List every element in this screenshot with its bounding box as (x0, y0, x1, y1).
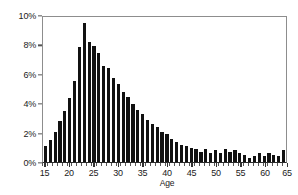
x-tick-minor (209, 163, 210, 166)
x-tick-mark (167, 163, 168, 167)
x-tick-mark (69, 163, 70, 167)
x-tick-minor (282, 163, 283, 166)
x-tick-minor (57, 163, 58, 166)
x-tick-label: 25 (89, 168, 99, 178)
x-tick-minor (76, 163, 77, 166)
x-tick-minor (243, 163, 244, 166)
x-tick-minor (62, 163, 63, 166)
bar (97, 53, 100, 162)
bar (107, 68, 110, 162)
x-tick-minor (179, 163, 180, 166)
bar (136, 110, 139, 162)
bar (122, 92, 125, 162)
y-tick-label: 4% (0, 99, 36, 109)
x-tick-label: 60 (260, 168, 270, 178)
bar (199, 152, 202, 162)
x-tick-minor (125, 163, 126, 166)
bar (83, 23, 86, 162)
x-tick-minor (111, 163, 112, 166)
x-tick-label: 65 (282, 168, 292, 178)
x-tick-minor (155, 163, 156, 166)
bar (117, 84, 120, 162)
x-tick-minor (91, 163, 92, 166)
bar (146, 120, 149, 162)
x-tick-minor (71, 163, 72, 166)
x-tick-label: 45 (187, 168, 197, 178)
age-distribution-histogram: 0%2%4%6%8%10% 1520253035404550556065 Age (0, 0, 298, 195)
bar (78, 47, 81, 162)
x-tick-minor (199, 163, 200, 166)
x-tick-minor (253, 163, 254, 166)
bar (112, 78, 115, 162)
x-tick-minor (169, 163, 170, 166)
bar (233, 150, 236, 162)
bar (282, 150, 285, 162)
x-tick-minor (160, 163, 161, 166)
y-tick-label: 2% (0, 129, 36, 139)
x-tick-minor (277, 163, 278, 166)
x-tick-minor (47, 163, 48, 166)
bar (258, 153, 261, 162)
bar (88, 42, 91, 162)
x-tick-mark (93, 163, 94, 167)
bar (272, 155, 275, 162)
bar (58, 121, 61, 162)
x-tick-minor (145, 163, 146, 166)
plot-area (42, 16, 287, 163)
x-tick-mark (191, 163, 192, 167)
x-tick-label: 20 (64, 168, 74, 178)
x-tick-minor (248, 163, 249, 166)
bar (219, 153, 222, 162)
x-tick-label: 55 (236, 168, 246, 178)
x-tick-mark (287, 163, 288, 167)
x-tick-mark (44, 163, 45, 167)
x-tick-minor (120, 163, 121, 166)
x-tick-label: 50 (211, 168, 221, 178)
bar (238, 153, 241, 162)
bar (156, 127, 159, 162)
x-tick-minor (101, 163, 102, 166)
bar (277, 156, 280, 162)
x-tick-minor (52, 163, 53, 166)
x-tick-minor (233, 163, 234, 166)
bar (151, 124, 154, 162)
x-tick-minor (135, 163, 136, 166)
bar (194, 149, 197, 162)
x-tick-minor (130, 163, 131, 166)
bar (141, 114, 144, 162)
bar (170, 139, 173, 162)
bar (73, 81, 76, 162)
x-tick-minor (96, 163, 97, 166)
x-tick-minor (116, 163, 117, 166)
x-tick-label: 35 (138, 168, 148, 178)
y-tick-label: 0% (0, 158, 36, 168)
bar (165, 134, 168, 162)
bar (190, 148, 193, 163)
x-tick-minor (267, 163, 268, 166)
bar (204, 149, 207, 162)
x-tick-mark (240, 163, 241, 167)
bar (214, 150, 217, 162)
bar (92, 46, 95, 162)
y-tick-label: 10% (0, 11, 36, 21)
bar-series (43, 17, 286, 162)
x-tick-mark (216, 163, 217, 167)
x-tick-minor (165, 163, 166, 166)
x-tick-minor (223, 163, 224, 166)
x-tick-minor (184, 163, 185, 166)
x-tick-minor (194, 163, 195, 166)
x-tick-minor (204, 163, 205, 166)
bar (228, 152, 231, 162)
bar (63, 111, 66, 162)
x-tick-label: 40 (162, 168, 172, 178)
bar (102, 66, 105, 162)
x-tick-label: 30 (113, 168, 123, 178)
bar (131, 104, 134, 162)
bar (209, 153, 212, 162)
bar (68, 98, 71, 162)
bar (267, 153, 270, 162)
bar (224, 149, 227, 162)
x-tick-minor (214, 163, 215, 166)
x-tick-minor (67, 163, 68, 166)
x-tick-minor (189, 163, 190, 166)
